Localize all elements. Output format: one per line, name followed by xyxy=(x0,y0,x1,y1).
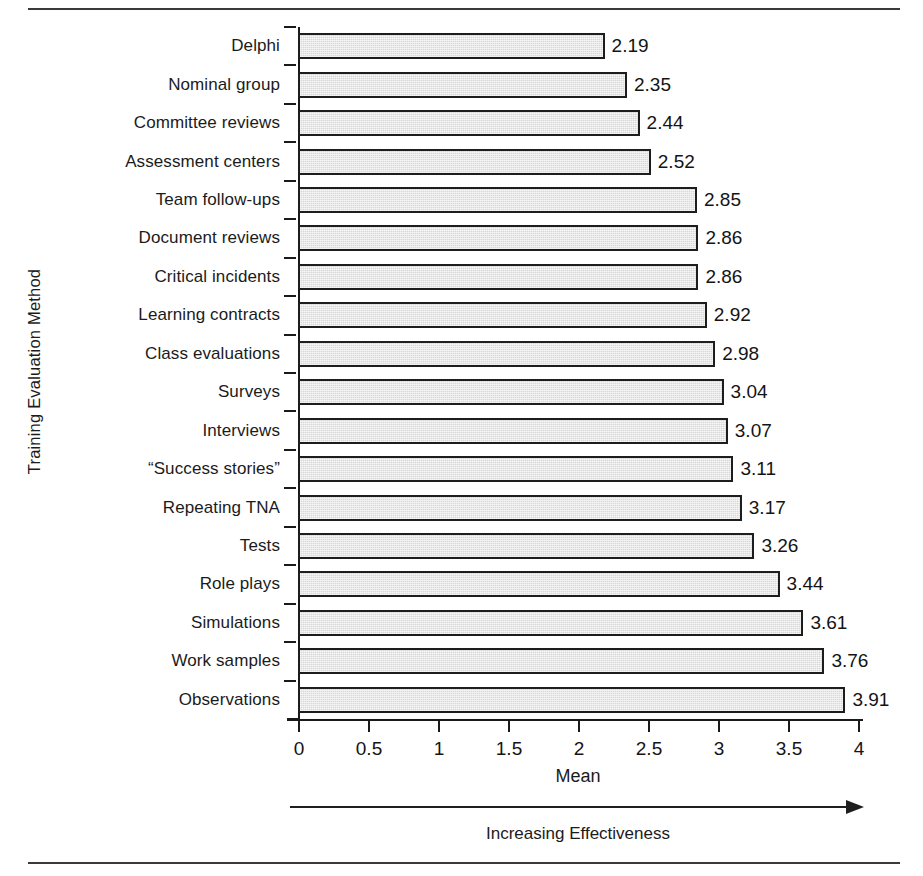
y-axis-tick xyxy=(284,603,296,605)
bar-row: Observations3.91 xyxy=(298,681,858,719)
category-label: Nominal group xyxy=(168,75,280,95)
y-axis-tick xyxy=(284,295,296,297)
bar-value-label: 2.85 xyxy=(704,189,741,211)
bar-value-label: 3.76 xyxy=(831,650,868,672)
bar: 2.52 xyxy=(298,149,651,175)
bar: 2.86 xyxy=(298,225,698,251)
y-axis-tick xyxy=(284,334,296,336)
bar-row: Class evaluations2.98 xyxy=(298,335,858,373)
bar-value-label: 3.26 xyxy=(761,535,798,557)
bar-value-label: 3.17 xyxy=(749,497,786,519)
bar-value-label: 2.98 xyxy=(722,343,759,365)
y-axis-title: Training Evaluation Method xyxy=(25,212,44,532)
increasing-effectiveness-arrow xyxy=(290,800,866,814)
y-axis-tick xyxy=(284,103,296,105)
category-label: Critical incidents xyxy=(154,267,280,287)
x-axis-title: Mean xyxy=(298,766,858,787)
right-arrow-icon xyxy=(846,800,864,814)
bar: 2.98 xyxy=(298,341,715,367)
bar: 2.92 xyxy=(298,302,707,328)
bottom-divider-rule xyxy=(28,862,900,864)
x-axis-tick xyxy=(368,719,370,732)
category-label: Team follow-ups xyxy=(156,190,280,210)
x-axis-tick-label: 3.5 xyxy=(776,738,802,760)
category-label: Class evaluations xyxy=(145,344,280,364)
y-axis-tick xyxy=(284,564,296,566)
y-axis-tick xyxy=(284,410,296,412)
category-label: “Success stories” xyxy=(148,459,280,479)
x-axis-tick xyxy=(438,719,440,732)
x-axis-spine xyxy=(287,719,863,721)
y-axis-tick xyxy=(284,180,296,182)
bar-row: Delphi2.19 xyxy=(298,27,858,65)
bar: 2.85 xyxy=(298,187,697,213)
bar-row: Committee reviews2.44 xyxy=(298,104,858,142)
y-axis-tick xyxy=(284,372,296,374)
y-axis-tick xyxy=(284,64,296,66)
bar-row: Team follow-ups2.85 xyxy=(298,181,858,219)
bar-row: Nominal group2.35 xyxy=(298,65,858,103)
category-label: Repeating TNA xyxy=(163,498,280,518)
category-label: Document reviews xyxy=(139,228,280,248)
bar-value-label: 3.91 xyxy=(852,689,889,711)
x-axis-tick-label: 0.5 xyxy=(356,738,382,760)
bar: 3.91 xyxy=(298,687,845,713)
x-axis-tick-label: 1 xyxy=(434,738,445,760)
x-axis-tick xyxy=(508,719,510,732)
x-axis-tick xyxy=(858,719,860,732)
y-axis-tick xyxy=(284,218,296,220)
bar: 3.17 xyxy=(298,495,742,521)
x-axis-tick xyxy=(788,719,790,732)
top-divider-rule xyxy=(28,8,900,10)
bar-value-label: 2.86 xyxy=(705,266,742,288)
y-axis-tick xyxy=(284,449,296,451)
x-axis-tick xyxy=(578,719,580,732)
y-axis-tick xyxy=(284,487,296,489)
bar-value-label: 3.44 xyxy=(787,573,824,595)
category-label: Simulations xyxy=(191,613,280,633)
bar: 3.26 xyxy=(298,533,754,559)
y-axis-tick xyxy=(284,257,296,259)
bar: 3.07 xyxy=(298,418,728,444)
bar-row: Role plays3.44 xyxy=(298,565,858,603)
bar-value-label: 2.92 xyxy=(714,304,751,326)
category-label: Role plays xyxy=(200,574,280,594)
bar: 3.61 xyxy=(298,610,803,636)
bar-row: Repeating TNA3.17 xyxy=(298,488,858,526)
category-label: Delphi xyxy=(231,36,280,56)
category-label: Surveys xyxy=(218,382,280,402)
effectiveness-caption: Increasing Effectiveness xyxy=(290,824,866,844)
bar-value-label: 2.86 xyxy=(705,227,742,249)
bar-row: Work samples3.76 xyxy=(298,642,858,680)
bar-row: Critical incidents2.86 xyxy=(298,258,858,296)
bar-value-label: 3.11 xyxy=(740,458,776,480)
y-axis-tick xyxy=(284,26,296,28)
bar: 2.44 xyxy=(298,110,640,136)
arrow-line xyxy=(290,806,850,808)
bar-value-label: 3.04 xyxy=(731,381,768,403)
x-axis-tick-label: 2.5 xyxy=(636,738,662,760)
x-axis-tick-label: 4 xyxy=(854,738,865,760)
bar: 2.35 xyxy=(298,72,627,98)
category-label: Interviews xyxy=(202,421,280,441)
x-axis-tick xyxy=(718,719,720,732)
bar-value-label: 3.07 xyxy=(735,420,772,442)
x-axis-tick xyxy=(648,719,650,732)
bar-value-label: 2.44 xyxy=(647,112,684,134)
bar-row: Document reviews2.86 xyxy=(298,219,858,257)
x-axis-tick-label: 1.5 xyxy=(496,738,522,760)
bar-value-label: 2.19 xyxy=(612,35,649,57)
bar-row: Simulations3.61 xyxy=(298,604,858,642)
bar-row: Surveys3.04 xyxy=(298,373,858,411)
y-axis-tick xyxy=(284,526,296,528)
bar-value-label: 2.52 xyxy=(658,151,695,173)
plot-area: Delphi2.19Nominal group2.35Committee rev… xyxy=(298,27,858,719)
category-label: Learning contracts xyxy=(138,305,280,325)
y-axis-tick xyxy=(284,641,296,643)
bar-row: Assessment centers2.52 xyxy=(298,142,858,180)
y-axis-tick xyxy=(284,141,296,143)
category-label: Assessment centers xyxy=(125,152,280,172)
bar-row: “Success stories”3.11 xyxy=(298,450,858,488)
bar-row: Tests3.26 xyxy=(298,527,858,565)
bar: 3.11 xyxy=(298,456,733,482)
